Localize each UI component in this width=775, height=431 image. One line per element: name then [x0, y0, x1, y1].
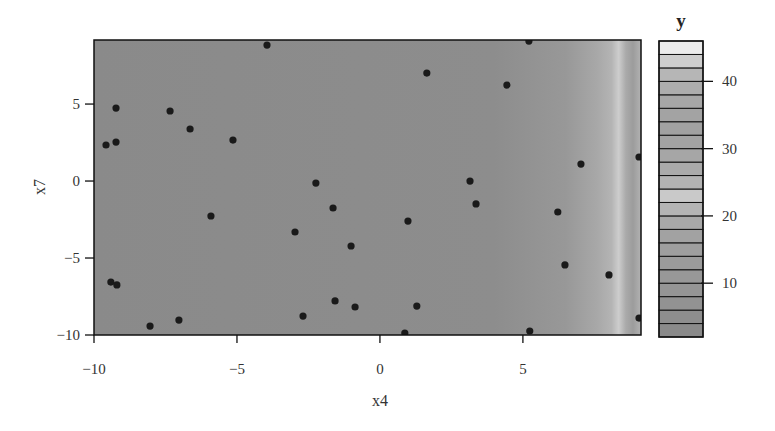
y-tick-label: 5 [73, 96, 81, 112]
data-point [207, 212, 214, 219]
legend-ticks: 10203040 [701, 73, 737, 291]
data-point [605, 271, 612, 278]
data-point [347, 242, 354, 249]
legend-band [659, 54, 703, 67]
legend-band [659, 68, 703, 81]
data-point [525, 37, 532, 44]
legend-band [659, 149, 703, 162]
legend-band [659, 108, 703, 121]
legend-band [659, 324, 703, 337]
data-point [113, 281, 120, 288]
legend-band [659, 229, 703, 242]
legend-tick-label: 40 [722, 73, 737, 89]
data-point [526, 327, 533, 334]
data-point [263, 41, 270, 48]
data-point [331, 297, 338, 304]
legend-colorbar [659, 41, 703, 337]
legend-band [659, 189, 703, 202]
data-point [329, 204, 336, 211]
legend-band [659, 95, 703, 108]
data-point [299, 312, 306, 319]
data-point [175, 316, 182, 323]
legend-tick-label: 20 [722, 208, 737, 224]
data-point [112, 104, 119, 111]
data-point [466, 177, 473, 184]
legend-band [659, 283, 703, 296]
data-point [413, 302, 420, 309]
contour-chart: −10−505 −10−505 x4 x7 y 10203040 [0, 0, 775, 431]
legend-title: y [676, 10, 686, 31]
legend-band [659, 41, 703, 54]
data-point [561, 261, 568, 268]
x-tick-label: 5 [519, 361, 527, 377]
legend-band [659, 216, 703, 229]
data-point [166, 107, 173, 114]
x-tick-label: −10 [82, 361, 105, 377]
data-point [102, 141, 109, 148]
data-point [186, 125, 193, 132]
x-tick-label: 0 [376, 361, 384, 377]
data-point [503, 82, 510, 89]
y-axis-title: x7 [31, 179, 48, 195]
legend-band [659, 135, 703, 148]
x-axis-title: x4 [372, 392, 388, 409]
data-point [112, 138, 119, 145]
data-point [229, 136, 236, 143]
x-axis: −10−505 [82, 335, 526, 377]
legend-tick-label: 30 [722, 141, 737, 157]
y-tick-label: −10 [57, 327, 80, 343]
data-point [423, 70, 430, 77]
data-point [404, 217, 411, 224]
data-point [312, 179, 319, 186]
x-tick-label: −5 [229, 361, 245, 377]
legend-band [659, 310, 703, 323]
data-point [351, 303, 358, 310]
plot-panel [94, 37, 643, 336]
data-point [554, 208, 561, 215]
legend-band [659, 297, 703, 310]
legend-band [659, 256, 703, 269]
legend-band [659, 243, 703, 256]
data-point [577, 160, 584, 167]
y-axis: −10−505 [57, 96, 94, 343]
color-legend: y 10203040 [659, 10, 737, 337]
legend-band [659, 162, 703, 175]
y-tick-label: 0 [73, 173, 81, 189]
legend-band [659, 176, 703, 189]
data-point [472, 200, 479, 207]
y-tick-label: −5 [64, 250, 80, 266]
legend-band [659, 202, 703, 215]
data-point [146, 322, 153, 329]
legend-band [659, 270, 703, 283]
legend-tick-label: 10 [722, 275, 737, 291]
data-point [291, 228, 298, 235]
legend-band [659, 81, 703, 94]
contour-fill [94, 40, 641, 335]
legend-band [659, 122, 703, 135]
